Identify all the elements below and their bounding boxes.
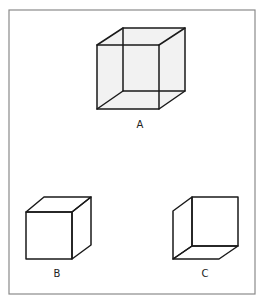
necker-cube-diagram: A B C bbox=[0, 0, 263, 305]
cube-c-label: C bbox=[202, 268, 209, 279]
cube-a-shade bbox=[97, 28, 185, 109]
cube-b-label: B bbox=[54, 268, 61, 279]
cube-a-label: A bbox=[137, 119, 144, 130]
